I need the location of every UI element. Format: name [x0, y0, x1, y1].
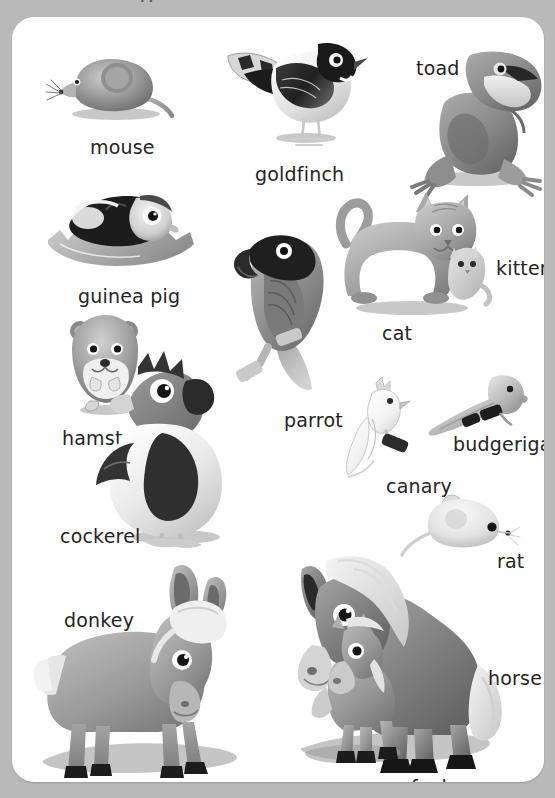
guinea-pig-illustration: [40, 182, 200, 277]
goldfinch-illustration: [218, 22, 368, 152]
label-foal: foal: [411, 776, 447, 782]
mouse-illustration: [44, 42, 184, 127]
label-parrot: parrot: [284, 409, 343, 431]
page-root: g: [0, 0, 555, 798]
label-kitten: kitten: [496, 257, 544, 279]
canary-illustration: [338, 373, 428, 483]
label-cat: cat: [382, 322, 412, 344]
label-toad: toad: [416, 57, 460, 79]
cockerel-illustration: [90, 337, 250, 552]
cropped-title-fragment: g: [140, 0, 200, 2]
content-card: mouse: [12, 17, 544, 782]
label-horse: horse: [488, 667, 542, 689]
label-mouse: mouse: [90, 136, 155, 158]
foal-illustration: [290, 613, 420, 773]
label-donkey: donkey: [64, 609, 134, 631]
donkey-illustration: [22, 552, 262, 782]
label-cockerel: cockerel: [60, 525, 141, 547]
label-budgerigar: budgerigar: [453, 433, 544, 455]
cat-illustration: [328, 182, 513, 322]
label-guinea-pig: guinea pig: [78, 285, 180, 307]
kitten-figure: [448, 246, 489, 304]
